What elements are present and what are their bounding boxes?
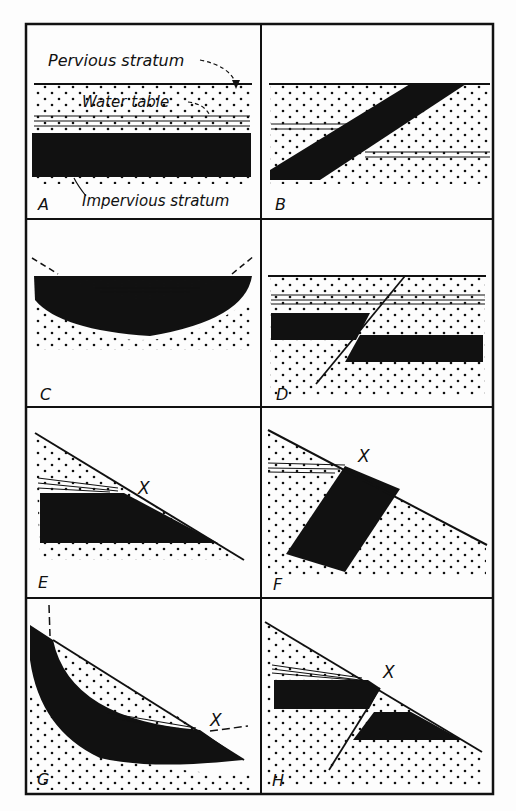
panel-label-a: A [37, 195, 49, 214]
panel-label-e: E [38, 573, 49, 592]
panel-label-h: H [272, 771, 284, 790]
panel-label-d: D [276, 385, 288, 404]
panel-label-g: G [37, 770, 49, 789]
x-marker-e: X [137, 478, 150, 498]
label-water-table: Water table [82, 93, 169, 111]
panel-f [268, 430, 487, 575]
panel-d [268, 276, 486, 396]
panel-g [30, 605, 250, 790]
label-pervious-stratum: Pervious stratum [48, 51, 184, 70]
x-marker-g: X [209, 710, 222, 730]
geologic-diagram: Pervious stratum Water table Impervious … [0, 0, 516, 811]
panel-b [269, 84, 490, 184]
faulted-layer-upper [274, 680, 380, 709]
panel-a [32, 60, 252, 196]
x-marker-f: X [357, 446, 370, 466]
faulted-layer-right [345, 335, 483, 362]
panel-label-f: F [273, 575, 283, 594]
label-impervious-stratum: Impervious stratum [82, 192, 229, 210]
pervious-arrow [200, 60, 236, 84]
panel-c [32, 256, 254, 350]
panel-label-c: C [40, 385, 52, 404]
impervious-layer [32, 133, 251, 177]
outcropping-layer [40, 493, 218, 543]
panel-h [265, 622, 482, 785]
panel-label-b: B [275, 195, 286, 214]
x-marker-h: X [382, 662, 395, 682]
